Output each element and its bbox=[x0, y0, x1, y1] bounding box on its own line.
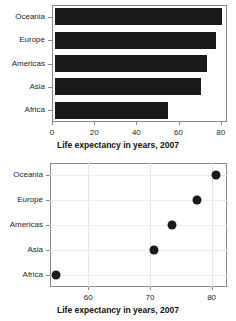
dot-x-tick-mark bbox=[88, 287, 89, 290]
bar-x-tick-label-80: 80 bbox=[216, 129, 225, 137]
dot-x-axis-title: Life expectancy in years, 2007 bbox=[0, 305, 236, 315]
bar-y-tick-label-africa: Africa bbox=[0, 106, 45, 114]
figure-two-panel-life-expectancy: OceaniaEuropeAmericasAsiaAfrica 02040608… bbox=[0, 0, 236, 321]
bar-chart-panel: OceaniaEuropeAmericasAsiaAfrica 02040608… bbox=[0, 0, 236, 155]
bar-y-tick-label-asia: Asia bbox=[0, 83, 45, 91]
dot-y-tick-mark bbox=[46, 275, 50, 276]
dot-y-tick-mark bbox=[46, 250, 50, 251]
bar-x-tick-label-20: 20 bbox=[90, 129, 99, 137]
dot-y-tick-mark bbox=[46, 175, 50, 176]
dot-oceania bbox=[211, 171, 220, 180]
bar-y-tick-label-oceania: Oceania bbox=[0, 13, 45, 21]
bar-y-tick-mark bbox=[48, 17, 52, 18]
bar-y-tick-label-americas: Americas bbox=[0, 60, 45, 68]
bar-europe bbox=[55, 32, 216, 49]
dot-plot-horizontal-gridline bbox=[50, 275, 227, 276]
dot-x-tick-label-80: 80 bbox=[207, 294, 216, 302]
dot-x-tick-mark bbox=[150, 287, 151, 290]
bar-y-tick-label-europe: Europe bbox=[0, 36, 45, 44]
bar-x-axis-title: Life expectancy in years, 2007 bbox=[0, 140, 236, 150]
dot-y-tick-mark bbox=[46, 200, 50, 201]
dot-plot-horizontal-gridline bbox=[50, 175, 227, 176]
dot-africa bbox=[52, 270, 61, 279]
dot-x-tick-mark bbox=[212, 287, 213, 290]
bar-x-tick-mark bbox=[179, 122, 180, 125]
dot-americas bbox=[168, 221, 177, 230]
bar-x-tick-label-40: 40 bbox=[132, 129, 141, 137]
bar-x-tick-mark bbox=[221, 122, 222, 125]
dot-y-tick-mark bbox=[46, 225, 50, 226]
dot-europe bbox=[192, 196, 201, 205]
dot-y-tick-label-americas: Americas bbox=[0, 221, 43, 229]
bar-africa bbox=[55, 102, 168, 119]
dot-plot-horizontal-gridline bbox=[50, 250, 227, 251]
bar-americas bbox=[55, 55, 207, 72]
dot-y-tick-label-asia: Asia bbox=[0, 246, 43, 254]
bar-y-tick-mark bbox=[48, 64, 52, 65]
bar-oceania bbox=[55, 8, 222, 25]
dot-plot-horizontal-gridline bbox=[50, 225, 227, 226]
dot-asia bbox=[150, 245, 159, 254]
bar-x-tick-mark bbox=[136, 122, 137, 125]
dot-y-tick-label-europe: Europe bbox=[0, 196, 43, 204]
bar-x-tick-label-60: 60 bbox=[174, 129, 183, 137]
bar-y-tick-mark bbox=[48, 87, 52, 88]
bar-y-tick-mark bbox=[48, 110, 52, 111]
bar-asia bbox=[55, 78, 201, 95]
dot-plot-panel: OceaniaEuropeAmericasAsiaAfrica 607080 L… bbox=[0, 155, 236, 321]
dot-y-tick-label-oceania: Oceania bbox=[0, 171, 43, 179]
bar-x-tick-label-0: 0 bbox=[50, 129, 54, 137]
bar-x-tick-mark bbox=[52, 122, 53, 125]
dot-x-tick-label-70: 70 bbox=[145, 294, 154, 302]
bar-y-tick-mark bbox=[48, 40, 52, 41]
dot-x-tick-label-60: 60 bbox=[84, 294, 93, 302]
dot-y-tick-label-africa: Africa bbox=[0, 271, 43, 279]
bar-x-tick-mark bbox=[94, 122, 95, 125]
